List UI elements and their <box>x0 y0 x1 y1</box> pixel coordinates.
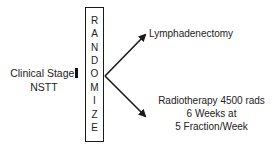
radiotherapy-line-3: 5 Fraction/Week <box>148 120 275 133</box>
radiotherapy-line-2: 6 Weeks at <box>148 107 275 120</box>
arrow-to-lymphadenectomy <box>105 35 145 76</box>
radiotherapy-line-1: Radiotherapy 4500 rads <box>148 94 275 107</box>
arm-lymphadenectomy: Lymphadenectomy <box>149 27 233 40</box>
arm-radiotherapy: Radiotherapy 4500 rads 6 Weeks at 5 Frac… <box>148 94 275 133</box>
arrow-to-radiotherapy <box>105 76 145 116</box>
